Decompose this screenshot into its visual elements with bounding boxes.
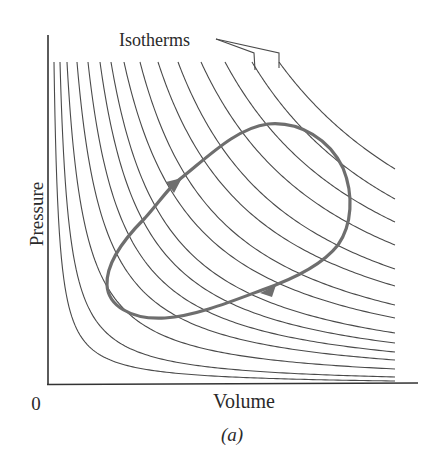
isotherm-curve <box>178 62 395 269</box>
isotherms-annotation: Isotherms <box>119 30 279 70</box>
isotherm-curves <box>54 62 395 381</box>
cycle-path <box>107 124 350 318</box>
pv-diagram: Isotherms Pressure 0 Volume (a) <box>0 0 445 471</box>
isotherms-label: Isotherms <box>119 30 190 50</box>
x-axis-label: Volume <box>213 390 275 412</box>
cycle-loop <box>107 124 350 318</box>
origin-label: 0 <box>31 393 41 414</box>
y-axis-label: Pressure <box>26 182 47 246</box>
figure-caption: (a) <box>221 424 243 446</box>
isotherm-curve <box>279 62 395 169</box>
isotherm-curve <box>158 62 395 286</box>
isotherm-curve <box>77 62 395 360</box>
isotherm-curve <box>54 62 395 381</box>
isotherm-curve <box>201 62 395 245</box>
x-axis <box>47 383 418 385</box>
isotherm-curve <box>60 62 395 377</box>
isotherm-curve <box>67 62 395 369</box>
isotherm-curve <box>124 62 395 318</box>
axes <box>47 35 418 385</box>
